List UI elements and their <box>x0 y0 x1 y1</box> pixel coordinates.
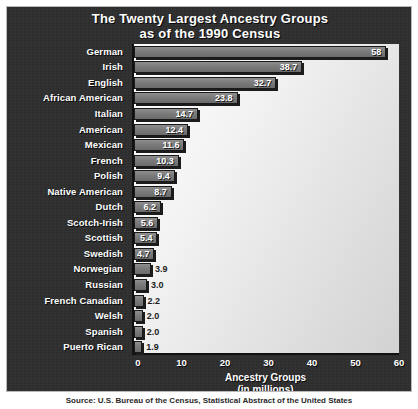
bar-value-label: 12.4 <box>165 125 183 135</box>
bar: 11.6 <box>134 139 184 151</box>
bar-track: 11.6 <box>128 139 412 151</box>
bar-value-label: 9.4 <box>157 171 170 181</box>
bar-value-label: 5.4 <box>140 233 153 243</box>
category-label: English <box>7 78 128 88</box>
chart-row: Native American8.7 <box>7 186 412 198</box>
bar-track: 4.7 <box>128 248 412 260</box>
bar: 32.7 <box>134 77 276 89</box>
bar <box>134 341 142 353</box>
bar-value-label: 1.9 <box>146 342 159 352</box>
bar-track: 38.7 <box>128 61 412 73</box>
category-label: Welsh <box>7 311 128 321</box>
chart-row: German58 <box>7 46 412 58</box>
bar <box>134 263 151 275</box>
chart-row: Spanish2.0 <box>7 326 412 338</box>
bar: 5.6 <box>134 217 158 229</box>
chart-row: African American23.8 <box>7 92 412 104</box>
bar-value-label: 23.8 <box>215 93 233 103</box>
bar-track: 23.8 <box>128 92 412 104</box>
chart-row: Russian3.0 <box>7 279 412 291</box>
category-label: Dutch <box>7 202 128 212</box>
bar-value-label: 4.7 <box>137 249 150 259</box>
chart-row: Welsh2.0 <box>7 310 412 322</box>
bar: 9.4 <box>134 170 175 182</box>
category-label: Irish <box>7 62 128 72</box>
category-label: Scottish <box>7 233 128 243</box>
chart-row: Norwegian3.9 <box>7 263 412 275</box>
bar: 58 <box>134 46 386 58</box>
category-label: Spanish <box>7 327 128 337</box>
chart-row: French Canadian2.2 <box>7 295 412 307</box>
bar <box>134 279 147 291</box>
category-label: Italian <box>7 109 128 119</box>
chart-row: Scotch-Irish5.6 <box>7 217 412 229</box>
chart-row: Swedish4.7 <box>7 248 412 260</box>
chart-title-line-2: as of the 1990 Census <box>7 27 412 42</box>
bar-value-label: 2.0 <box>147 327 160 337</box>
bar-value-label: 3.9 <box>155 264 168 274</box>
source-caption: Source: U.S. Bureau of the Census, Stati… <box>0 396 418 409</box>
bar <box>134 310 143 322</box>
bar-track: 12.4 <box>128 124 412 136</box>
bar-track: 1.9 <box>128 341 412 353</box>
bar-track: 10.3 <box>128 155 412 167</box>
x-tick-label: 50 <box>350 357 361 368</box>
category-label: French Canadian <box>7 296 128 306</box>
bar: 4.7 <box>134 248 154 260</box>
x-tick-label: 0 <box>135 357 140 368</box>
category-label: Russian <box>7 280 128 290</box>
chart-row: Italian14.7 <box>7 108 412 120</box>
chart-row: Irish38.7 <box>7 61 412 73</box>
bar-track: 14.7 <box>128 108 412 120</box>
x-axis-title-line-2: (in millions) <box>132 384 399 393</box>
bar-track: 2.0 <box>128 326 412 338</box>
bar: 23.8 <box>134 92 238 104</box>
bar-value-label: 58 <box>371 47 381 57</box>
chart-row: American12.4 <box>7 124 412 136</box>
chart-title: The Twenty Largest Ancestry Groups as of… <box>7 12 412 41</box>
x-axis-title-line-1: Ancestry Groups <box>132 372 399 384</box>
chart-row: Puerto Rican1.9 <box>7 341 412 353</box>
x-axis-ticks: 0102030405060 <box>7 357 412 371</box>
chart-row: English32.7 <box>7 77 412 89</box>
bar-track: 9.4 <box>128 170 412 182</box>
bar-track: 6.2 <box>128 201 412 213</box>
chart-title-line-1: The Twenty Largest Ancestry Groups <box>7 12 412 27</box>
category-label: African American <box>7 93 128 103</box>
bar-track: 3.0 <box>128 279 412 291</box>
category-label: Native American <box>7 187 128 197</box>
chart-row: Scottish5.4 <box>7 232 412 244</box>
x-tick-label: 40 <box>307 357 318 368</box>
bar-track: 58 <box>128 46 412 58</box>
chart-row: Polish9.4 <box>7 170 412 182</box>
bar-value-label: 3.0 <box>151 280 164 290</box>
bar-value-label: 32.7 <box>254 78 272 88</box>
category-label: Puerto Rican <box>7 342 128 352</box>
category-label: German <box>7 47 128 57</box>
chart-panel: The Twenty Largest Ancestry Groups as of… <box>6 6 412 392</box>
bar: 38.7 <box>134 61 302 73</box>
x-tick-label: 30 <box>263 357 274 368</box>
bar-track: 2.0 <box>128 310 412 322</box>
chart-row: French10.3 <box>7 155 412 167</box>
bar-track: 5.4 <box>128 232 412 244</box>
bar-value-label: 8.7 <box>154 187 167 197</box>
bar-track: 2.2 <box>128 295 412 307</box>
category-label: American <box>7 125 128 135</box>
bar-value-label: 14.7 <box>175 109 193 119</box>
bar-value-label: 5.6 <box>141 218 154 228</box>
bar-value-label: 38.7 <box>280 62 298 72</box>
bar: 10.3 <box>134 155 179 167</box>
bar-track: 5.6 <box>128 217 412 229</box>
category-label: Swedish <box>7 249 128 259</box>
category-label: Polish <box>7 171 128 181</box>
bar-value-label: 6.2 <box>143 202 156 212</box>
x-axis-title: Ancestry Groups (in millions) <box>132 372 399 392</box>
x-tick-label: 60 <box>394 357 405 368</box>
bar: 6.2 <box>134 201 161 213</box>
chart-rows: German58Irish38.7English32.7African Amer… <box>7 44 412 355</box>
chart-row: Mexican11.6 <box>7 139 412 151</box>
bar: 14.7 <box>134 108 198 120</box>
bar-track: 32.7 <box>128 77 412 89</box>
bar: 5.4 <box>134 232 157 244</box>
